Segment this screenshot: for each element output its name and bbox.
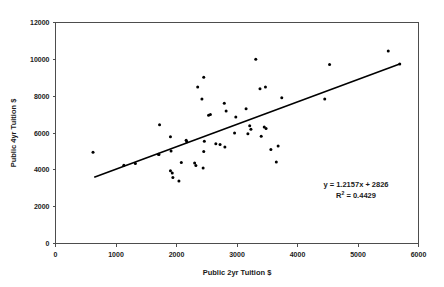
data-point [225, 109, 228, 112]
y-tick-label: 6000 [34, 130, 50, 137]
data-point [323, 97, 326, 100]
y-tick-label: 0 [46, 240, 50, 247]
data-point [219, 143, 222, 146]
data-point [223, 102, 226, 105]
data-point [258, 87, 261, 90]
x-tick-label: 2000 [169, 251, 185, 258]
data-point [275, 161, 278, 164]
data-point [158, 123, 161, 126]
x-tick-label: 4000 [290, 251, 306, 258]
y-axis-ticks: 020004000600080001000012000 [30, 19, 55, 247]
data-point [265, 127, 268, 130]
y-tick-label: 4000 [34, 166, 50, 173]
data-point [277, 144, 280, 147]
x-axis-title: Public 2yr Tuition $ [203, 268, 272, 277]
y-tick-label: 8000 [34, 93, 50, 100]
data-point [260, 135, 263, 138]
y-axis-title: Public 4yr Tuition $ [9, 98, 18, 167]
chart-figure: 020004000600080001000012000 010002000300… [0, 0, 444, 287]
x-axis-ticks: 0100020003000400050006000 [54, 244, 427, 258]
x-tick-label: 0 [54, 251, 58, 258]
data-point [169, 135, 172, 138]
data-point [180, 161, 183, 164]
data-point [233, 132, 236, 135]
x-tick-label: 5000 [350, 251, 366, 258]
data-point [92, 151, 95, 154]
axes-group [55, 22, 419, 244]
data-point [269, 148, 272, 151]
data-point [245, 107, 248, 110]
data-point [264, 85, 267, 88]
data-point [209, 113, 212, 116]
data-point [254, 58, 257, 61]
data-points-layer [92, 50, 402, 183]
data-point [387, 50, 390, 53]
data-point [246, 132, 249, 135]
data-point [234, 115, 237, 118]
data-point [171, 176, 174, 179]
data-point [200, 97, 203, 100]
data-point [202, 76, 205, 79]
data-point [280, 96, 283, 99]
x-tick-label: 6000 [411, 251, 427, 258]
trend-line [94, 64, 400, 177]
x-tick-label: 3000 [229, 251, 245, 258]
scatter-plot-svg: 020004000600080001000012000 010002000300… [0, 0, 444, 287]
data-point [194, 164, 197, 167]
data-point [223, 145, 226, 148]
r-squared-value: = 0.4429 [344, 191, 376, 200]
regression-equation: y = 1.2157x + 2826 [323, 180, 388, 189]
data-point [170, 150, 173, 153]
data-point [202, 150, 205, 153]
data-point [196, 85, 199, 88]
data-point [214, 142, 217, 145]
y-tick-label: 12000 [30, 19, 50, 26]
r-squared-annotation: R2 = 0.4429 [336, 190, 376, 200]
data-point [202, 166, 205, 169]
x-tick-label: 1000 [108, 251, 124, 258]
data-point [248, 124, 251, 127]
data-point [203, 140, 206, 143]
y-tick-label: 10000 [30, 56, 50, 63]
y-tick-label: 2000 [34, 203, 50, 210]
data-point [328, 63, 331, 66]
data-point [177, 179, 180, 182]
data-point [249, 128, 252, 131]
data-point [171, 171, 174, 174]
